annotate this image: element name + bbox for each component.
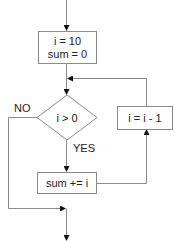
accumulate-node: sum += i	[38, 173, 97, 194]
loop-back-edge	[68, 79, 147, 107]
accumulate-label: sum += i	[46, 177, 88, 189]
decrement-label: i = i - 1	[128, 112, 161, 124]
condition-label: i > 0	[56, 112, 77, 124]
no-label: NO	[14, 102, 31, 114]
init-node: i = 10 sum = 0	[39, 32, 97, 64]
init-line1: i = 10	[54, 35, 81, 47]
flowchart-canvas: i = 10 sum = 0 i > 0 NO YES sum += i i =…	[0, 0, 178, 241]
yes-label: YES	[73, 142, 95, 154]
init-line2: sum = 0	[48, 48, 87, 60]
accumulate-to-decrement-edge	[97, 130, 147, 184]
decrement-node: i = i - 1	[118, 107, 173, 130]
condition-node: i > 0	[37, 95, 97, 140]
